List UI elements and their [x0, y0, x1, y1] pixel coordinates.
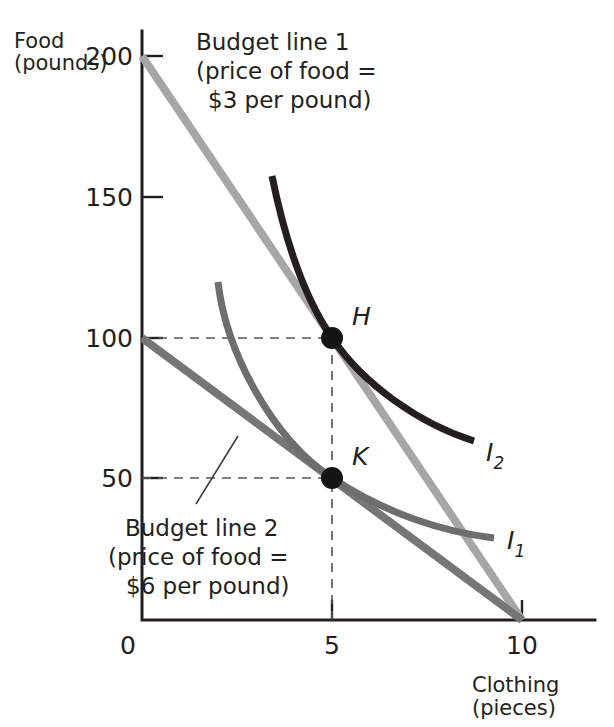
- y-axis-title-line2: (pounds): [14, 51, 107, 75]
- budget-line-2-leader: [196, 436, 238, 504]
- xtick-label-5: 5: [324, 631, 340, 660]
- curve-label-i2-sub: 2: [493, 453, 504, 473]
- tangency-points-group: H K: [321, 302, 371, 489]
- chart-svg: 200 150 100 50 0 5 10 Food (pounds) Clot…: [0, 0, 614, 727]
- curve-label-i1-sub: 1: [514, 541, 525, 561]
- point-k-label: K: [352, 442, 371, 471]
- indifference-curve-chart: 200 150 100 50 0 5 10 Food (pounds) Clot…: [0, 0, 614, 727]
- budget-line-1-annotation-line3: $3 per pound): [208, 87, 372, 113]
- point-k-marker: [321, 467, 343, 489]
- axis-titles-group: Food (pounds) Clothing (pieces): [14, 29, 559, 720]
- xtick-label-10: 10: [506, 631, 538, 660]
- y-axis-title-line1: Food: [14, 29, 64, 53]
- xtick-label-0: 0: [120, 631, 136, 660]
- x-axis-title-line2: (pieces): [472, 696, 556, 720]
- budget-line-2-annotation-line2: (price of food =: [108, 544, 288, 570]
- budget-line-1-annotation-line1: Budget line 1: [196, 29, 350, 55]
- curve-label-i1: I1: [507, 526, 525, 561]
- point-h-marker: [321, 327, 343, 349]
- point-h-label: H: [352, 302, 371, 331]
- budget-line-2-annotation-line1: Budget line 2: [125, 515, 279, 541]
- curve-label-i2-base: I: [486, 438, 493, 467]
- budget-line-2-annotation-line3: $6 per pound): [126, 573, 290, 599]
- ytick-label-50: 50: [101, 464, 133, 493]
- x-axis-title-line1: Clothing: [472, 673, 559, 697]
- budget-line-1-annotation: Budget line 1 (price of food = $3 per po…: [196, 29, 376, 113]
- budget-line-1-annotation-line2: (price of food =: [196, 58, 376, 84]
- curve-label-i2: I2: [486, 438, 504, 473]
- curve-labels-group: I2 I1: [486, 438, 525, 561]
- ytick-label-150: 150: [85, 183, 133, 212]
- curve-label-i1-base: I: [507, 526, 514, 555]
- budget-line-2-annotation: Budget line 2 (price of food = $6 per po…: [108, 436, 290, 599]
- ytick-label-100: 100: [85, 324, 133, 353]
